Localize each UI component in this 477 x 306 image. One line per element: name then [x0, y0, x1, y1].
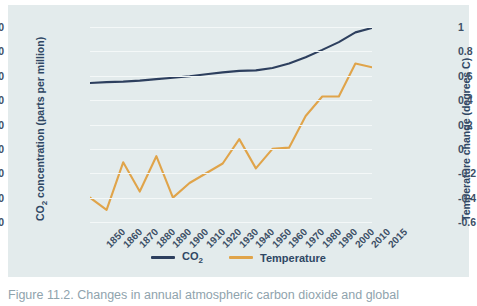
- y-axis-right-tick-label: -0.2: [458, 168, 476, 179]
- legend-label-subscript: 2: [199, 256, 203, 265]
- legend-label-prefix: CO: [182, 250, 199, 262]
- figure-caption: Figure 11.2. Changes in annual atmospher…: [8, 289, 473, 303]
- y-axis-left-tick-label: 150: [0, 144, 4, 155]
- y-axis-right-tick-label: 0.8: [458, 46, 473, 57]
- gridline: [90, 76, 372, 77]
- y-axis-left-tick-label: 350: [0, 46, 4, 57]
- legend-swatch-co2: [151, 256, 175, 259]
- y-axis-left-title-subscript: 2: [40, 201, 49, 205]
- gridline: [90, 125, 372, 126]
- gridline: [90, 149, 372, 150]
- y-axis-right-tick-label: 0.6: [458, 71, 473, 82]
- x-axis-tick-label: 2015: [387, 227, 410, 250]
- y-axis-right-tick-label: 0.4: [458, 95, 473, 106]
- y-axis-left-tick-label: 100: [0, 168, 4, 179]
- plot-area: 050100150200250300350400 -0.6-0.4-0.200.…: [90, 27, 372, 222]
- y-axis-left-tick-label: 300: [0, 71, 4, 82]
- legend-label-temperature: Temperature: [260, 252, 326, 264]
- y-axis-right-tick-label: -0.6: [458, 217, 476, 228]
- y-axis-left-title: CO2 concentration (parts per million): [34, 37, 49, 221]
- y-axis-right-tick-label: -0.4: [458, 193, 476, 204]
- y-axis-left-tick-label: 400: [0, 22, 4, 33]
- y-axis-right-tick-label: 0.2: [458, 120, 473, 131]
- legend-swatch-temperature: [229, 256, 253, 259]
- chart-legend: CO2Temperature: [8, 250, 469, 265]
- gridline: [90, 198, 372, 199]
- legend-label-co2: CO2: [182, 250, 203, 265]
- legend-item-temperature[interactable]: Temperature: [229, 252, 326, 264]
- legend-item-co2[interactable]: CO2: [151, 250, 203, 265]
- y-axis-left-title-suffix: concentration (parts per million): [34, 37, 46, 201]
- y-axis-left-tick-label: 0: [0, 217, 4, 228]
- y-axis-left-tick-label: 200: [0, 120, 4, 131]
- gridline: [90, 222, 372, 223]
- chart-panel: CO2 concentration (parts per million) Te…: [8, 5, 469, 277]
- series-line-temperature: [90, 64, 372, 210]
- y-axis-right-tick-label: 1: [458, 22, 464, 33]
- gridline: [90, 51, 372, 52]
- gridline: [90, 27, 372, 28]
- gridline: [90, 173, 372, 174]
- y-axis-left-tick-label: 50: [0, 193, 4, 204]
- y-axis-left-title-prefix: CO: [34, 205, 46, 221]
- y-axis-right-tick-label: 0: [458, 144, 464, 155]
- y-axis-left-tick-label: 250: [0, 95, 4, 106]
- figure-container: CO2 concentration (parts per million) Te…: [0, 0, 477, 306]
- gridline: [90, 100, 372, 101]
